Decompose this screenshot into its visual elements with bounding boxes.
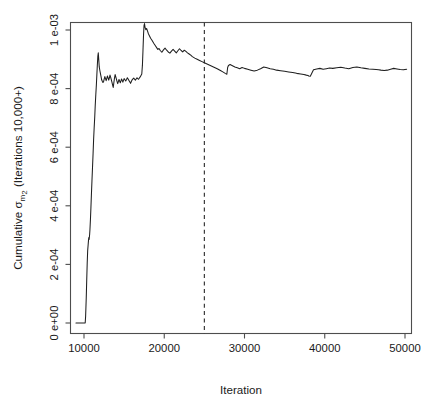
x-axis-ticks: 1000020000300004000050000	[68, 334, 420, 354]
y-tick-label: 0 e+00	[48, 306, 60, 341]
chart-figure: 0 e+002 e-044 e-046 e-048 e-041 e-03 100…	[0, 0, 433, 406]
y-axis-ticks: 0 e+002 e-044 e-046 e-048 e-041 e-03	[48, 14, 70, 340]
y-axis-title-symbol: σ	[11, 201, 24, 208]
y-axis-title: Cumulative σm2 (Iterations 10,000+)	[11, 86, 29, 270]
x-tick-label: 20000	[149, 342, 180, 354]
x-axis-title: Iteration	[220, 383, 262, 396]
y-tick-label: 6 e-04	[48, 131, 60, 163]
x-tick-label: 10000	[68, 342, 99, 354]
x-tick-label: 50000	[389, 342, 420, 354]
x-tick-label: 40000	[309, 342, 340, 354]
line-chart-canvas: 0 e+002 e-044 e-046 e-048 e-041 e-03 100…	[0, 0, 433, 406]
data-series-line	[76, 24, 407, 323]
y-axis-title-prefix: Cumulative	[11, 209, 24, 270]
y-tick-label: 2 e-04	[48, 248, 60, 280]
y-axis-title-suffix: (Iterations 10,000+)	[11, 86, 24, 190]
x-tick-label: 30000	[229, 342, 260, 354]
y-tick-label: 4 e-04	[48, 190, 60, 222]
y-tick-label: 8 e-04	[48, 73, 60, 105]
y-tick-label: 1 e-03	[48, 14, 60, 46]
plot-frame	[71, 23, 412, 334]
